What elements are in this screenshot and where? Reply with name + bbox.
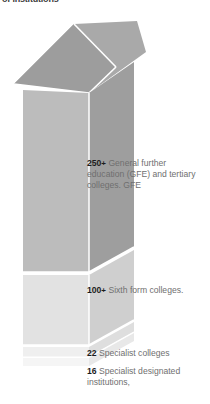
label-sixth-form: 100+ Sixth form colleges. — [87, 285, 205, 296]
label-specialist-designated-count: 16 — [87, 366, 97, 376]
label-gfe-count: 250 — [87, 158, 101, 168]
label-sixth-form-text: Sixth form colleges. — [108, 285, 183, 295]
label-specialist-designated: 16 Specialist designated institutions, — [87, 366, 205, 388]
infographic-canvas: of institutions — [0, 0, 210, 404]
label-gfe: 250+ General further education (GFE) and… — [87, 158, 205, 192]
label-sixth-form-count: 100 — [87, 285, 101, 295]
label-sixth-form-plus: + — [101, 286, 106, 295]
label-overlay: 250+ General further education (GFE) and… — [0, 0, 210, 404]
label-specialist-colleges-count: 22 — [87, 348, 97, 358]
label-specialist-colleges-text: Specialist colleges — [99, 348, 170, 358]
label-specialist-colleges: 22 Specialist colleges — [87, 348, 205, 359]
label-specialist-designated-text: Specialist designated institutions, — [87, 366, 180, 387]
label-gfe-plus: + — [101, 159, 106, 168]
